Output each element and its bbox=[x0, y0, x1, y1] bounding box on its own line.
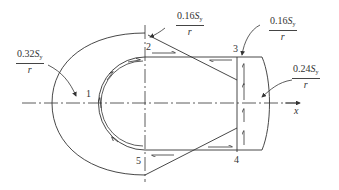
leader-lines bbox=[48, 25, 292, 97]
x-axis-label: x bbox=[294, 105, 298, 116]
point-2-label: 2 bbox=[146, 41, 151, 52]
annotation-top-right: 0.16Sy r bbox=[269, 15, 297, 42]
point-3-label: 3 bbox=[233, 43, 238, 54]
shear-flow-arrows bbox=[100, 53, 244, 155]
point-4-label: 4 bbox=[234, 154, 239, 165]
outer-boundary bbox=[52, 33, 237, 175]
annotation-top-mid: 0.16Sy r bbox=[176, 10, 204, 37]
point-5-label: 5 bbox=[136, 155, 141, 166]
annotation-left: 0.32Sy r bbox=[16, 48, 44, 75]
point-1-label: 1 bbox=[86, 88, 91, 99]
annotation-right: 0.24Sy r bbox=[292, 63, 320, 90]
axes bbox=[22, 25, 300, 182]
